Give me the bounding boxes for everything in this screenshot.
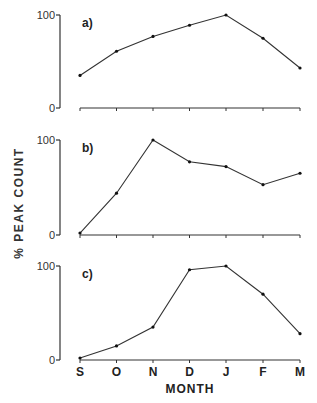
month-label: O [112,365,121,379]
y-tick-label-0: 0 [49,229,55,241]
data-point [151,138,154,141]
x-axis-label: MONTH [150,382,230,396]
data-point [188,24,191,27]
panel-label: c) [82,267,93,281]
data-point [261,183,264,186]
data-point [115,50,118,53]
data-point [188,160,191,163]
data-point [261,37,264,40]
data-point [298,66,301,69]
data-point [151,326,154,329]
data-point [115,192,118,195]
data-point [115,344,118,347]
month-label: M [295,365,305,379]
data-point [298,172,301,175]
data-point [78,232,81,235]
y-tick-label-100: 100 [37,260,55,272]
panel-label: b) [82,141,93,155]
month-label: N [149,365,158,379]
series-line [80,266,300,358]
y-tick-label-0: 0 [49,102,55,114]
data-point [224,13,227,16]
panel-label: a) [82,16,93,30]
series-line [80,140,300,233]
y-tick-label-0: 0 [49,354,55,366]
data-point [78,357,81,360]
data-point [188,268,191,271]
month-label: D [185,365,194,379]
month-label: S [76,365,84,379]
data-point [298,332,301,335]
data-point [151,35,154,38]
y-tick-label-100: 100 [37,134,55,146]
month-label: F [259,365,266,379]
month-label: J [223,365,230,379]
y-axis-label: % PEAK COUNT [12,143,28,263]
y-tick-label-100: 100 [37,9,55,21]
data-point [78,74,81,77]
data-point [261,293,264,296]
chart-figure: 1000a)1000b)1000c)SONDJFM [0,0,317,403]
data-point [224,264,227,267]
data-point [224,165,227,168]
